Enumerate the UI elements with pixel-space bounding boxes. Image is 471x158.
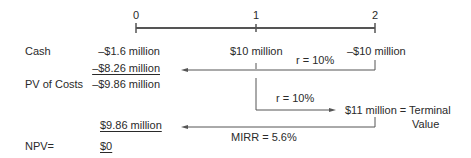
cash-value-year2: –$10 million: [347, 45, 406, 58]
discount-rate-label: r = 10%: [296, 54, 334, 67]
period-label-0: 0: [133, 9, 139, 22]
cash-value-year1: $10 million: [230, 45, 283, 58]
discount-arrow: [186, 60, 375, 70]
mirr-label: MIRR = 5.6%: [231, 131, 297, 144]
npv-value: $0: [100, 140, 112, 153]
period-label-1: 1: [253, 9, 259, 22]
discounted-cost-value: –$8.26 million: [80, 62, 160, 75]
pv-costs-label: PV of Costs: [25, 78, 83, 91]
arrowhead-left-icon: [181, 68, 188, 72]
arrowhead-right-icon: [329, 108, 336, 112]
terminal-value-label: $11 million = Terminal: [345, 104, 451, 117]
timeline: [136, 23, 375, 33]
npv-label: NPV=: [25, 140, 54, 153]
mirr-arrow: [186, 117, 375, 127]
period-label-2: 2: [372, 9, 378, 22]
cash-label: Cash: [25, 45, 51, 58]
cash-value-year0: –$1.6 million: [80, 45, 160, 58]
pv-terminal-value: $9.86 million: [100, 119, 162, 132]
arrowhead-left-icon: [181, 125, 188, 129]
pv-costs-value: –$9.86 million: [80, 78, 160, 91]
terminal-value-label-line2: Value: [412, 118, 439, 131]
compound-rate-label: r = 10%: [276, 92, 314, 105]
